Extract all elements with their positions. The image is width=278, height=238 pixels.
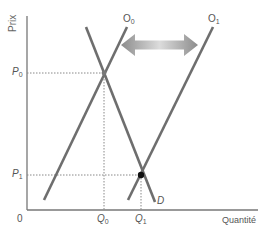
q1-letter: Q <box>135 213 143 224</box>
p1-subscript: 1 <box>19 173 23 180</box>
equilibrium-point-e1 <box>138 172 144 178</box>
o0-subscript: 0 <box>131 18 135 25</box>
origin-label: 0 <box>17 214 23 224</box>
q1-subscript: 1 <box>143 218 147 225</box>
supply-0-curve <box>44 27 127 200</box>
quantity-label-q0: Q0 <box>97 214 109 225</box>
curve-label-d: D <box>157 196 164 206</box>
p1-letter: P <box>12 168 19 179</box>
curve-label-o1: O1 <box>208 14 220 25</box>
supply-demand-diagram <box>0 0 278 238</box>
curve-label-o0: O0 <box>123 14 135 25</box>
q0-letter: Q <box>97 213 105 224</box>
price-label-p0: P0 <box>12 67 23 78</box>
demand-curve <box>86 27 155 202</box>
shift-arrow-icon <box>121 34 198 56</box>
quantity-label-q1: Q1 <box>135 214 147 225</box>
price-label-p1: P1 <box>12 169 23 180</box>
o1-letter: O <box>208 13 216 24</box>
equilibrium-point-e0 <box>102 71 107 76</box>
p0-letter: P <box>12 66 19 77</box>
y-axis-label: Prix <box>7 15 18 32</box>
o1-subscript: 1 <box>216 18 220 25</box>
x-axis-label: Quantité <box>222 216 256 225</box>
p0-subscript: 0 <box>19 71 23 78</box>
o0-letter: O <box>123 13 131 24</box>
q0-subscript: 0 <box>105 218 109 225</box>
